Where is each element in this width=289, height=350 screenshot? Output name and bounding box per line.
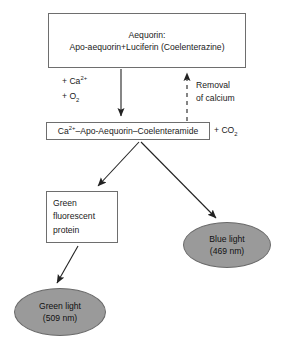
luciferin-text: Luciferin (Coelenterazine) bbox=[126, 42, 224, 52]
label-removal-of-calcium: Removal of calcium bbox=[196, 79, 235, 104]
removal-line-1: Removal bbox=[196, 79, 235, 92]
edge-complex-to-blue-light bbox=[141, 142, 216, 218]
aequorin-components: Apo-aequorin+Luciferin (Coelenterazine) bbox=[69, 41, 224, 53]
edge-complex-to-gfp bbox=[98, 142, 139, 186]
oxygen-addition-line: + O2 bbox=[62, 89, 87, 104]
node-aequorin-box[interactable]: Aequorin: Apo-aequorin+Luciferin (Coelen… bbox=[48, 13, 246, 68]
blue-light-label: Blue light bbox=[209, 233, 244, 245]
calcium-plus-text: + Ca bbox=[62, 76, 80, 86]
co2-text: + CO bbox=[214, 125, 234, 135]
calcium-addition-line: + Ca2+ bbox=[62, 74, 87, 89]
aequorin-title: Aequorin: bbox=[129, 29, 166, 41]
oxygen-plus-text: + O bbox=[62, 91, 76, 101]
co2-subscript: 2 bbox=[234, 131, 237, 137]
node-blue-light-ellipse[interactable]: Blue light (469 nm) bbox=[183, 222, 271, 268]
node-gfp-box[interactable]: Green fluorescent protein bbox=[46, 191, 118, 243]
label-calcium-oxygen: + Ca2+ + O2 bbox=[62, 74, 87, 104]
label-carbon-dioxide: + CO2 bbox=[214, 124, 238, 137]
node-complex-box[interactable]: Ca2+–Apo-Aequorin–Coelenteramide bbox=[46, 122, 210, 140]
diagram-canvas: Aequorin: Apo-aequorin+Luciferin (Coelen… bbox=[0, 0, 289, 350]
apo-aequorin-text: Apo-aequorin bbox=[69, 42, 121, 52]
removal-line-2: of calcium bbox=[196, 92, 235, 105]
gfp-line-3: protein bbox=[53, 224, 79, 238]
oxygen-subscript: 2 bbox=[76, 97, 79, 103]
green-light-label: Green light bbox=[39, 300, 81, 312]
green-light-wavelength: (509 nm) bbox=[43, 312, 77, 324]
gfp-line-2: fluorescent bbox=[53, 210, 95, 224]
node-green-light-ellipse[interactable]: Green light (509 nm) bbox=[14, 288, 106, 336]
complex-calcium-text: Ca bbox=[58, 126, 69, 136]
calcium-charge: 2+ bbox=[80, 75, 87, 81]
edge-gfp-to-green-light bbox=[57, 246, 78, 283]
gfp-line-1: Green bbox=[53, 197, 77, 211]
complex-formula: Ca2+–Apo-Aequorin–Coelenteramide bbox=[58, 126, 198, 137]
complex-rest-text: –Apo-Aequorin–Coelenteramide bbox=[75, 126, 198, 136]
blue-light-wavelength: (469 nm) bbox=[210, 245, 244, 257]
